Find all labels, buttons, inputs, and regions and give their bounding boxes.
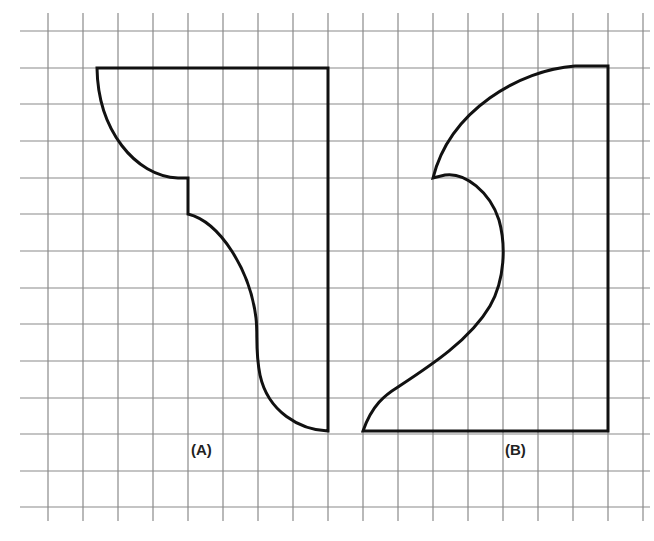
shape-b-outline: [363, 66, 608, 431]
grid-diagram: [0, 0, 654, 541]
shape-b-label: (B): [505, 441, 526, 458]
shape-a-label: (A): [191, 441, 212, 458]
grid-lines: [20, 13, 650, 521]
